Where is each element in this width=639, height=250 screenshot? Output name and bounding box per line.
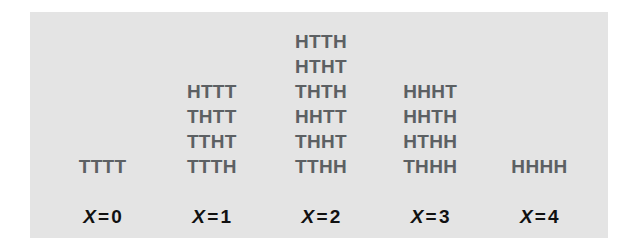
outcome-column-x0: TTTT X=0 <box>48 154 157 238</box>
variable-symbol: X <box>83 206 96 227</box>
column-label-x4: X=4 <box>520 206 559 228</box>
outcome-list-x0: TTTT <box>79 154 127 179</box>
column-label-value: 0 <box>111 206 122 227</box>
outcome-sequence: HHTH <box>403 104 457 129</box>
outcome-columns-container: TTTT X=0 HTTT THTT TTHT TTTH X=1 HTTH HT… <box>30 12 608 238</box>
column-label-x1: X=1 <box>192 206 231 228</box>
outcome-sequence: HTTH <box>295 29 347 54</box>
column-label-value: 4 <box>548 206 559 227</box>
column-label-value: 2 <box>330 206 341 227</box>
coin-flip-outcomes-figure: TTTT X=0 HTTT THTT TTHT TTTH X=1 HTTH HT… <box>30 12 608 238</box>
equals-symbol: = <box>96 206 111 227</box>
equals-symbol: = <box>424 206 439 227</box>
outcome-list-x3: HHHT HHTH HTHH THHH <box>403 79 457 179</box>
outcome-sequence: HTHT <box>295 54 347 79</box>
outcome-sequence: HTTT <box>187 79 237 104</box>
column-label-x2: X=2 <box>302 206 341 228</box>
outcome-column-x4: HHHH X=4 <box>485 154 594 238</box>
outcome-sequence: TTHH <box>295 154 347 179</box>
variable-symbol: X <box>520 206 533 227</box>
outcome-sequence: THHH <box>403 154 457 179</box>
outcome-list-x1: HTTT THTT TTHT TTTH <box>187 79 237 179</box>
outcome-sequence: HHTT <box>295 104 347 129</box>
outcome-sequence: THTT <box>187 104 237 129</box>
outcome-column-x1: HTTT THTT TTHT TTTH X=1 <box>157 79 266 238</box>
outcome-sequence: HHHH <box>511 154 567 179</box>
outcome-list-x4: HHHH <box>511 154 567 179</box>
outcome-column-x3: HHHT HHTH HTHH THHH X=3 <box>376 79 485 238</box>
variable-symbol: X <box>192 206 205 227</box>
column-label-value: 1 <box>221 206 232 227</box>
column-label-x0: X=0 <box>83 206 122 228</box>
outcome-sequence: THHT <box>295 129 347 154</box>
outcome-column-x2: HTTH HTHT THTH HHTT THHT TTHH X=2 <box>266 29 375 238</box>
variable-symbol: X <box>302 206 315 227</box>
column-label-value: 3 <box>439 206 450 227</box>
equals-symbol: = <box>205 206 220 227</box>
equals-symbol: = <box>314 206 329 227</box>
outcome-sequence: TTHT <box>187 129 237 154</box>
equals-symbol: = <box>533 206 548 227</box>
outcome-sequence: HHHT <box>403 79 457 104</box>
outcome-sequence: THTH <box>295 79 347 104</box>
column-label-x3: X=3 <box>411 206 450 228</box>
outcome-sequence: TTTH <box>187 154 237 179</box>
outcome-sequence: TTTT <box>79 154 127 179</box>
variable-symbol: X <box>411 206 424 227</box>
outcome-sequence: HTHH <box>403 129 457 154</box>
outcome-list-x2: HTTH HTHT THTH HHTT THHT TTHH <box>295 29 347 179</box>
